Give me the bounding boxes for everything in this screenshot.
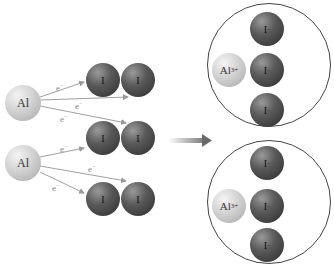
atom-label: Al [17,96,29,111]
iodine-atom: I [86,63,120,97]
iodine-atom: I [121,63,155,97]
aluminum-cation: Al3+ [212,53,246,87]
iodide-anion: I− [250,189,284,223]
iodide-anion: I− [250,228,284,262]
iodine-atom: I [86,121,120,155]
electron-label: e− [60,143,67,154]
aluminum-cation: Al3+ [212,189,246,223]
iodide-anion: I− [250,93,284,127]
iodine-atom: I [121,121,155,155]
iodide-anion: I− [250,12,284,46]
atom-label: Al [17,156,29,171]
electron-label: e− [56,82,63,93]
aluminum-atom: Al [5,145,41,181]
iodide-anion: I− [250,53,284,87]
electron-label: e− [52,182,59,193]
aluminum-atom: Al [5,85,41,121]
iodine-atom: I [86,182,120,216]
iodide-anion: I− [250,146,284,180]
iodine-atom: I [121,182,155,216]
reaction-arrow-icon [168,134,212,147]
electron-label: e− [60,113,67,124]
electron-label: e− [88,163,95,174]
electron-label: e− [75,100,82,111]
